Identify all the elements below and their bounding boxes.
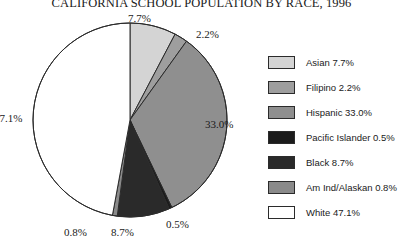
legend-swatch-pacific-islander [268, 131, 295, 144]
legend-item-am-ind-alaskan[interactable]: Am Ind/Alaskan 0.8% [268, 175, 403, 200]
slice-value-label-pacific-islander: 0.5% [166, 218, 189, 230]
legend-item-hispanic[interactable]: Hispanic 33.0% [268, 100, 403, 125]
legend-swatch-hispanic [268, 106, 295, 119]
pie-plot-area: 7.7% 2.2% 33.0% 0.5% 8.7% 0.8% 47.1% [0, 0, 260, 243]
legend-swatch-asian [268, 56, 295, 69]
pie-slice-group [33, 23, 227, 217]
legend-swatch-am-ind-alaskan [268, 181, 295, 194]
legend-label-white: White 47.1% [306, 207, 360, 218]
pie-chart-figure: CALIFORNIA SCHOOL POPULATION BY RACE, 19… [0, 0, 403, 243]
slice-value-label-hispanic: 33.0% [205, 118, 233, 130]
legend-swatch-filipino [268, 81, 295, 94]
chart-legend: Asian 7.7%Filipino 2.2%Hispanic 33.0%Pac… [268, 50, 403, 225]
slice-value-label-filipino: 2.2% [196, 28, 219, 40]
slice-value-label-black: 8.7% [111, 226, 134, 238]
legend-item-black[interactable]: Black 8.7% [268, 150, 403, 175]
legend-item-white[interactable]: White 47.1% [268, 200, 403, 225]
legend-label-black: Black 8.7% [306, 157, 354, 168]
slice-value-label-white: 47.1% [0, 112, 22, 124]
legend-item-pacific-islander[interactable]: Pacific Islander 0.5% [268, 125, 403, 150]
legend-label-hispanic: Hispanic 33.0% [306, 107, 372, 118]
legend-label-am-ind-alaskan: Am Ind/Alaskan 0.8% [306, 182, 397, 193]
legend-label-pacific-islander: Pacific Islander 0.5% [306, 132, 395, 143]
legend-label-filipino: Filipino 2.2% [306, 82, 360, 93]
legend-swatch-white [268, 206, 295, 219]
legend-item-asian[interactable]: Asian 7.7% [268, 50, 403, 75]
pie-slice-white[interactable] [33, 23, 130, 215]
slice-value-label-am-ind-alaskan: 0.8% [64, 226, 87, 238]
legend-swatch-black [268, 156, 295, 169]
slice-value-label-asian: 7.7% [128, 12, 151, 24]
legend-item-filipino[interactable]: Filipino 2.2% [268, 75, 403, 100]
legend-label-asian: Asian 7.7% [306, 57, 354, 68]
